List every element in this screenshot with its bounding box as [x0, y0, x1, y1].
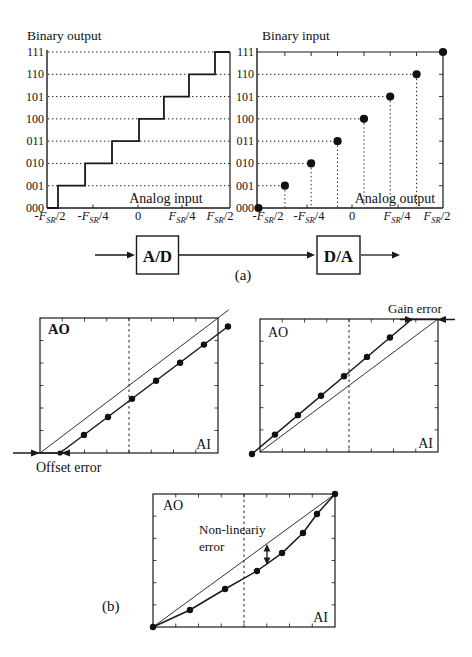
- sample-dot: [279, 550, 285, 556]
- sample-dot: [314, 511, 320, 517]
- sample-dot: [272, 431, 278, 437]
- nonlinearity-error-label-line2: error: [199, 539, 225, 554]
- ideal-transfer-line: [153, 494, 335, 627]
- dac-level-dot: [386, 92, 394, 100]
- sample-dot: [295, 412, 301, 418]
- sample-dot: [300, 530, 306, 536]
- gain-error-label: Gain error: [388, 301, 442, 316]
- sample-dot: [177, 359, 183, 365]
- nonlinearity-yaxis-label: AO: [163, 498, 183, 513]
- binary-code-label: 101: [236, 90, 254, 104]
- binary-code-label: 011: [26, 134, 44, 148]
- nonlinearity-error-label-line1: Non-lineariy: [199, 522, 266, 537]
- arrow-right-icon: [31, 450, 40, 457]
- offset-error-annotation: [13, 450, 70, 457]
- x-tick-label: 0: [349, 209, 355, 223]
- binary-code-label: 010: [236, 156, 254, 170]
- adc-xaxis-label: Analog input: [129, 191, 203, 206]
- offset-xaxis-label: AI: [196, 437, 211, 452]
- arrow-right-icon: [392, 252, 400, 259]
- dac-level-dot: [412, 70, 420, 78]
- sample-dot: [222, 586, 228, 592]
- offset-error-label: Offset error: [36, 460, 102, 475]
- binary-code-label: 111: [27, 45, 44, 59]
- dac-level-dot: [281, 182, 289, 190]
- caption-a: (a): [235, 267, 252, 284]
- sample-dot: [364, 354, 370, 360]
- binary-code-label: 001: [236, 179, 254, 193]
- nonlinearity-xaxis-label: AI: [313, 610, 328, 625]
- binary-code-label: 001: [26, 179, 44, 193]
- sample-dot: [341, 373, 347, 379]
- binary-code-label: 100: [236, 112, 254, 126]
- adc-plot-title: Binary output: [27, 28, 102, 43]
- staircase-transfer-curve: [47, 52, 230, 208]
- x-tick-label: FSR/2: [423, 209, 451, 225]
- figure-canvas: 000001010011100101110111-FSR/2-FSR/40FSR…: [0, 0, 472, 657]
- sample-dot: [249, 451, 255, 457]
- arrow-right-icon: [307, 252, 315, 259]
- dac-level-dot: [360, 115, 368, 123]
- sample-dot: [318, 393, 324, 399]
- sample-dot: [81, 432, 87, 438]
- sample-dot: [153, 378, 159, 384]
- figure-page: 000001010011100101110111-FSR/2-FSR/40FSR…: [0, 0, 472, 657]
- arrow-right-icon: [127, 252, 135, 259]
- da-block-label: D/A: [324, 247, 354, 266]
- binary-code-label: 110: [26, 67, 44, 81]
- x-tick-label: FSR/4: [383, 209, 412, 225]
- sample-dot: [225, 323, 231, 329]
- offset-yaxis-label: AO: [48, 321, 70, 337]
- dac-level-dot: [307, 159, 315, 167]
- x-tick-label: -FSR/2: [35, 209, 66, 225]
- dac-xaxis-label: Analog output: [355, 191, 436, 206]
- sample-dot: [254, 568, 260, 574]
- caption-b: (b): [102, 598, 120, 615]
- sample-dot: [387, 334, 393, 340]
- dac-level-dot: [254, 204, 262, 212]
- binary-code-label: 010: [26, 156, 44, 170]
- binary-code-label: 011: [236, 134, 254, 148]
- binary-code-label: 111: [237, 45, 254, 59]
- x-tick-label: -FSR/4: [294, 209, 326, 225]
- dac-plot-title: Binary input: [262, 28, 330, 43]
- sample-dot: [129, 396, 135, 402]
- sample-dot: [201, 341, 207, 347]
- gain-yaxis-label: AO: [268, 325, 288, 340]
- sample-dot: [332, 491, 338, 497]
- x-tick-label: -FSR/4: [78, 209, 110, 225]
- dac-level-dot: [439, 48, 447, 56]
- sample-dot: [187, 607, 193, 613]
- binary-code-label: 110: [236, 67, 254, 81]
- x-tick-label: FSR/2: [206, 209, 234, 225]
- ad-block-label: A/D: [143, 247, 172, 266]
- sample-dot: [105, 414, 111, 420]
- binary-code-label: 000: [236, 201, 254, 215]
- binary-code-label: 100: [26, 112, 44, 126]
- sample-dot: [150, 624, 156, 630]
- x-tick-label: 0: [135, 209, 141, 223]
- x-tick-label: FSR/4: [168, 209, 197, 225]
- dac-level-dot: [333, 137, 341, 145]
- binary-code-label: 101: [26, 90, 44, 104]
- gain-xaxis-label: AI: [418, 436, 433, 451]
